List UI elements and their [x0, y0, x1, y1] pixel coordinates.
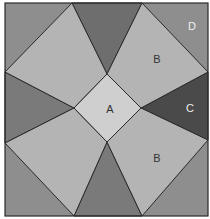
label-d: D	[188, 20, 196, 32]
quilt-block-diagram: A B B C D	[0, 0, 210, 219]
label-a: A	[106, 103, 114, 115]
label-b-top: B	[153, 53, 160, 65]
label-c: C	[186, 102, 194, 114]
label-b-bottom: B	[153, 152, 160, 164]
